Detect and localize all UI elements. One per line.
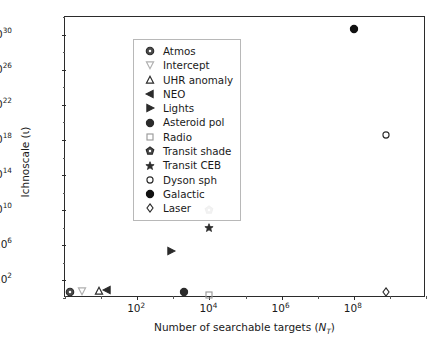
- legend-item-asteroid-pol[interactable]: Asteroid pol: [139, 115, 233, 129]
- y-tick-label-4: 1018: [0, 134, 12, 145]
- legend-item-galactic[interactable]: Galactic: [139, 187, 233, 201]
- legend-label: Asteroid pol: [161, 117, 224, 127]
- x-tick-label-2: 106: [272, 303, 290, 314]
- y-tick-14: [62, 175, 66, 176]
- legend-marker-circle-open-icon: [139, 173, 161, 187]
- legend-marker-square-icon: [139, 130, 161, 144]
- x-tick-8: [354, 296, 355, 300]
- y-tick-10: [62, 210, 66, 211]
- plot-area: AtmosInterceptUHR anomalyNEOLightsAstero…: [64, 16, 425, 297]
- y-tick-label-5: 1022: [0, 99, 12, 110]
- legend-label: UHR anomaly: [161, 75, 233, 85]
- x-tick-10: [426, 296, 427, 299]
- y-tick-16: [63, 158, 66, 159]
- legend-marker-triangle-up-icon: [139, 73, 161, 87]
- x-tick-label-1: 104: [199, 303, 217, 314]
- legend-marker-triangle-down-icon: [139, 58, 161, 72]
- data-point-asteroid-pol[interactable]: [178, 286, 190, 298]
- y-tick-18: [62, 140, 66, 141]
- legend-item-dyson-sph[interactable]: Dyson sph: [139, 173, 233, 187]
- y-tick-8: [63, 228, 66, 229]
- x-tick-6: [282, 296, 283, 300]
- figure: AtmosInterceptUHR anomalyNEOLightsAstero…: [0, 0, 441, 341]
- x-tick-2: [137, 296, 138, 300]
- legend-label: Intercept: [161, 60, 210, 70]
- y-tick-20: [63, 122, 66, 123]
- legend-label: Galactic: [161, 189, 205, 199]
- x-tick-label-0: 102: [127, 303, 145, 314]
- legend-label: Lights: [161, 103, 194, 113]
- data-point-transit-ceb[interactable]: [203, 222, 215, 234]
- x-tick-7: [318, 296, 319, 299]
- x-tick-label-3: 108: [344, 303, 362, 314]
- legend-item-uhr-anomaly[interactable]: UHR anomaly: [139, 73, 233, 87]
- legend-item-atmos[interactable]: Atmos: [139, 44, 233, 58]
- y-tick-12: [63, 193, 66, 194]
- legend-marker-triangle-left-icon: [139, 87, 161, 101]
- legend-item-radio[interactable]: Radio: [139, 130, 233, 144]
- y-tick-4: [63, 263, 66, 264]
- legend: AtmosInterceptUHR anomalyNEOLightsAstero…: [133, 39, 241, 221]
- y-tick-label-1: 106: [0, 239, 12, 250]
- y-tick-6: [62, 245, 66, 246]
- legend-label: NEO: [161, 89, 185, 99]
- legend-item-transit-ceb[interactable]: Transit CEB: [139, 158, 233, 172]
- legend-marker-star-icon: [139, 159, 161, 173]
- data-point-galactic[interactable]: [348, 23, 360, 35]
- legend-marker-triangle-right-icon: [139, 101, 161, 115]
- legend-label: Laser: [161, 203, 191, 213]
- y-tick-label-0: 102: [0, 274, 12, 285]
- data-point-neo[interactable]: [101, 284, 113, 296]
- y-tick-26: [62, 70, 66, 71]
- y-tick-label-2: 1010: [0, 204, 12, 215]
- y-tick-22: [62, 105, 66, 106]
- data-point-dyson-sph[interactable]: [380, 129, 392, 141]
- x-axis-label: Number of searchable targets (NT): [64, 321, 425, 333]
- y-tick-label-3: 1014: [0, 169, 12, 180]
- legend-item-intercept[interactable]: Intercept: [139, 58, 233, 72]
- legend-item-neo[interactable]: NEO: [139, 87, 233, 101]
- y-tick-28: [63, 52, 66, 53]
- legend-marker-circle-filled-icon: [139, 187, 161, 201]
- x-tick-5: [246, 296, 247, 299]
- y-tick-0: [63, 298, 66, 299]
- legend-marker-pentagon-dot-icon: [139, 144, 161, 158]
- y-tick-32: [63, 17, 66, 18]
- legend-marker-diamond-icon: [139, 201, 161, 215]
- legend-item-transit-shade[interactable]: Transit shade: [139, 144, 233, 158]
- y-tick-24: [63, 87, 66, 88]
- data-point-laser[interactable]: [380, 286, 392, 298]
- y-axis-label: Ichnoscale (ι): [19, 82, 31, 242]
- legend-label: Atmos: [161, 46, 196, 56]
- y-tick-30: [62, 35, 66, 36]
- legend-item-lights[interactable]: Lights: [139, 101, 233, 115]
- legend-label: Transit shade: [161, 146, 231, 156]
- legend-item-laser[interactable]: Laser: [139, 201, 233, 215]
- y-tick-2: [62, 280, 66, 281]
- legend-marker-circle-dot-icon: [139, 44, 161, 58]
- data-point-lights[interactable]: [165, 245, 177, 257]
- legend-label: Radio: [161, 132, 192, 142]
- legend-label: Transit CEB: [161, 160, 221, 170]
- x-tick-3: [173, 296, 174, 299]
- y-tick-label-6: 1026: [0, 63, 12, 74]
- y-tick-label-7: 1030: [0, 28, 12, 39]
- data-point-intercept[interactable]: [76, 285, 88, 297]
- data-point-atmos[interactable]: [64, 286, 76, 298]
- legend-marker-circle-icon: [139, 116, 161, 130]
- legend-label: Dyson sph: [161, 175, 217, 185]
